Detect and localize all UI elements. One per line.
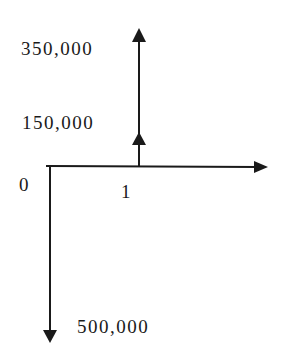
time-axis — [46, 161, 268, 173]
inflow-arrow-period-1 — [132, 28, 146, 166]
inflow-label-150000: 150,000 — [22, 113, 94, 132]
up-arrow-icon-top — [132, 28, 146, 42]
down-arrow-icon — [43, 330, 57, 343]
inflow-label-350000: 350,000 — [21, 39, 93, 58]
time-axis-arrow-icon — [254, 161, 268, 173]
up-arrow-icon-mid — [132, 132, 146, 145]
period-label-1: 1 — [121, 182, 132, 201]
outflow-arrow-period-0 — [43, 166, 57, 343]
period-label-0: 0 — [19, 175, 30, 194]
outflow-label-500000: 500,000 — [77, 317, 149, 336]
